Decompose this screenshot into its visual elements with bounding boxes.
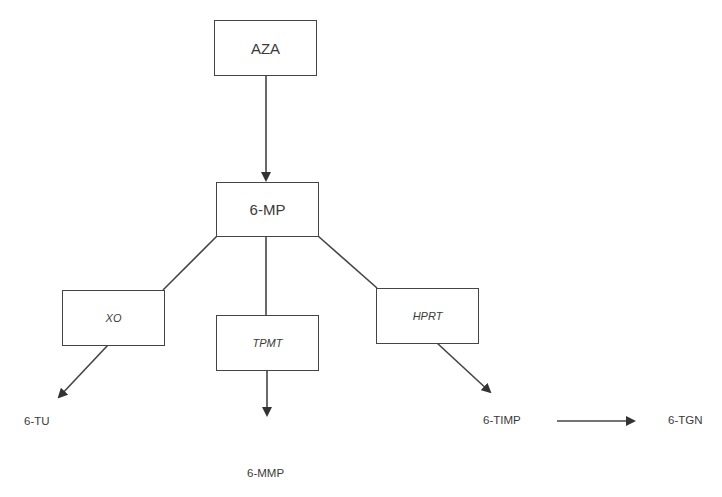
node-aza: AZA xyxy=(214,20,317,76)
connector-layer xyxy=(0,0,722,497)
line-6mp-to-hprt xyxy=(318,236,377,288)
node-tpmt: TPMT xyxy=(216,315,319,371)
node-6mp: 6-MP xyxy=(216,182,319,237)
node-hprt-label: HPRT xyxy=(413,310,443,322)
node-tpmt-label: TPMT xyxy=(253,337,283,349)
line-6mp-to-xo xyxy=(163,236,217,290)
node-hprt: HPRT xyxy=(376,288,479,344)
metabolite-6timp: 6-TIMP xyxy=(483,414,521,426)
node-aza-label: AZA xyxy=(251,40,280,57)
arrow-hprt-to-6timp xyxy=(437,343,490,392)
node-xo: XO xyxy=(62,290,165,346)
arrow-xo-to-6tu xyxy=(59,345,108,397)
node-6mp-label: 6-MP xyxy=(250,201,286,218)
node-xo-label: XO xyxy=(106,312,122,324)
metabolite-6tu: 6-TU xyxy=(24,415,50,427)
metabolite-6tgn: 6-TGN xyxy=(668,414,703,426)
metabolite-6mmp: 6-MMP xyxy=(247,467,284,479)
